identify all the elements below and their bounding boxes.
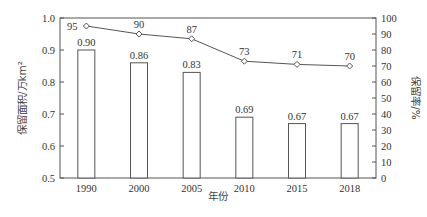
right-tick-label: 70: [381, 61, 392, 72]
left-tick-label: 0.8: [42, 77, 55, 88]
bar: [289, 124, 306, 178]
bar-value-label: 0.67: [340, 111, 358, 122]
plot-border: [60, 18, 376, 178]
bar: [236, 117, 253, 178]
right-tick-label: 100: [381, 13, 397, 24]
left-tick-label: 0.9: [42, 45, 55, 56]
bar: [131, 63, 148, 178]
right-tick-label: 80: [381, 45, 392, 56]
line-value-label: 73: [239, 46, 250, 57]
right-tick-label: 50: [381, 93, 392, 104]
combo-chart: 0.900.860.830.690.670.67 959087737170 0.…: [0, 0, 427, 217]
line-value-label: 70: [344, 51, 355, 62]
right-tick-label: 20: [381, 141, 392, 152]
x-tick-label: 2015: [287, 183, 308, 194]
bar-value-label: 0.90: [77, 37, 95, 48]
line-value-label: 90: [134, 19, 145, 30]
line-value-label: 71: [292, 49, 303, 60]
diamond-marker-icon: [347, 63, 353, 69]
left-tick-label: 0.7: [42, 109, 55, 120]
line-value-label: 95: [67, 21, 78, 32]
bar: [78, 50, 95, 178]
bar-value-label: 0.67: [288, 111, 306, 122]
x-tick-label: 2005: [181, 183, 202, 194]
diamond-marker-icon: [294, 61, 300, 67]
retention-line: 959087737170: [67, 19, 355, 69]
left-y-axis-title: 保留面积/万km²: [16, 61, 28, 135]
left-tick-label: 0.6: [42, 141, 55, 152]
bar: [183, 72, 200, 178]
left-tick-label: 0.5: [42, 173, 55, 184]
right-tick-label: 60: [381, 77, 392, 88]
diamond-marker-icon: [136, 31, 142, 37]
right-tick-label: 0: [381, 173, 386, 184]
x-tick-label: 2018: [339, 183, 360, 194]
right-tick-label: 10: [381, 157, 392, 168]
right-tick-label: 90: [381, 29, 392, 40]
bar: [341, 124, 358, 178]
left-y-axis: 0.50.60.70.80.91.0: [42, 13, 64, 184]
right-tick-label: 40: [381, 109, 392, 120]
right-tick-label: 30: [381, 125, 392, 136]
x-axis-title: 年份: [208, 190, 229, 202]
x-tick-label: 2000: [129, 183, 150, 194]
diamond-marker-icon: [241, 58, 247, 64]
diamond-marker-icon: [189, 36, 195, 42]
plot-frame: [60, 18, 376, 178]
bar-value-label: 0.69: [235, 104, 253, 115]
x-tick-label: 2010: [234, 183, 255, 194]
bar-value-label: 0.86: [130, 50, 148, 61]
right-y-axis-title: 保留率/%: [410, 76, 422, 120]
left-tick-label: 1.0: [42, 13, 55, 24]
x-tick-label: 1990: [76, 183, 97, 194]
retention-polyline: [86, 26, 349, 66]
bars-area: 0.900.860.830.690.670.67: [77, 37, 359, 178]
diamond-marker-icon: [83, 23, 89, 29]
bar-value-label: 0.83: [182, 59, 200, 70]
line-value-label: 87: [186, 24, 197, 35]
